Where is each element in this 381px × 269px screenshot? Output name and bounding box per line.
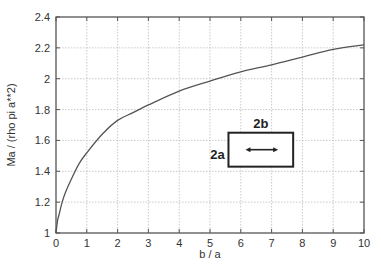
y-tick-label: 1.6: [35, 134, 50, 146]
data-series: [56, 45, 364, 233]
y-tick-label: 1.8: [35, 104, 50, 116]
x-tick-label: 6: [238, 237, 244, 249]
chart: 012345678910 11.21.41.61.822.22.4 b / a …: [0, 0, 381, 269]
x-tick-label: 7: [269, 237, 275, 249]
grid-lines: [56, 17, 364, 233]
width-label: 2b: [253, 116, 268, 131]
series-line: [56, 45, 364, 233]
x-tick-label: 0: [53, 237, 59, 249]
y-tick-labels: 11.21.41.61.822.22.4: [35, 11, 50, 239]
y-axis-label: Ma / (rho pi a**2): [5, 83, 17, 166]
y-tick-label: 1.4: [35, 165, 50, 177]
y-tick-label: 2.2: [35, 42, 50, 54]
geometry-inset-diagram: 2b 2a: [210, 116, 293, 167]
x-tick-label: 1: [84, 237, 90, 249]
y-tick-label: 1.2: [35, 196, 50, 208]
x-tick-label: 4: [176, 237, 182, 249]
x-tick-label: 10: [358, 237, 370, 249]
x-axis-label: b / a: [199, 248, 221, 260]
x-tick-label: 2: [115, 237, 121, 249]
x-tick-label: 3: [145, 237, 151, 249]
y-tick-label: 2: [44, 73, 50, 85]
x-tick-label: 9: [330, 237, 336, 249]
height-label: 2a: [210, 147, 225, 162]
x-tick-label: 8: [299, 237, 305, 249]
y-tick-label: 1: [44, 227, 50, 239]
y-tick-label: 2.4: [35, 11, 50, 23]
